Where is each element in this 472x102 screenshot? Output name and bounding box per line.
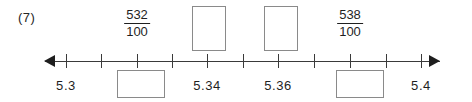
answer-box-below-right[interactable] (336, 70, 384, 98)
tick-mark (278, 54, 279, 68)
tick-mark (101, 54, 102, 68)
fraction-numerator: 538 (337, 8, 363, 24)
fraction-label-532-over-100: 532 100 (124, 8, 150, 39)
tick-mark (314, 54, 315, 68)
axis-label-5-3: 5.3 (56, 78, 76, 93)
tick-mark (66, 54, 67, 68)
arrow-left-icon (44, 55, 55, 67)
fraction-denominator: 100 (124, 24, 150, 39)
tick-mark (137, 54, 138, 68)
tick-mark (172, 54, 173, 68)
answer-box-above-right[interactable] (264, 6, 298, 51)
answer-box-below-left[interactable] (117, 70, 165, 98)
axis-label-5-34: 5.34 (193, 78, 221, 93)
axis-label-5-4: 5.4 (411, 78, 431, 93)
tick-mark (243, 54, 244, 68)
fraction-numerator: 532 (124, 8, 150, 24)
number-line-diagram: 532 100 538 100 5.3 5.34 5.36 5.4 (0, 0, 472, 102)
tick-mark (207, 54, 208, 68)
tick-mark (421, 54, 422, 68)
fraction-denominator: 100 (337, 24, 363, 39)
axis-label-5-36: 5.36 (264, 78, 292, 93)
fraction-label-538-over-100: 538 100 (337, 8, 363, 39)
answer-box-above-left[interactable] (192, 6, 226, 51)
tick-mark (350, 54, 351, 68)
worksheet-page: (7) 532 100 538 100 5.3 5.34 5.36 (0, 0, 472, 102)
tick-mark (386, 54, 387, 68)
arrow-right-icon (429, 55, 440, 67)
